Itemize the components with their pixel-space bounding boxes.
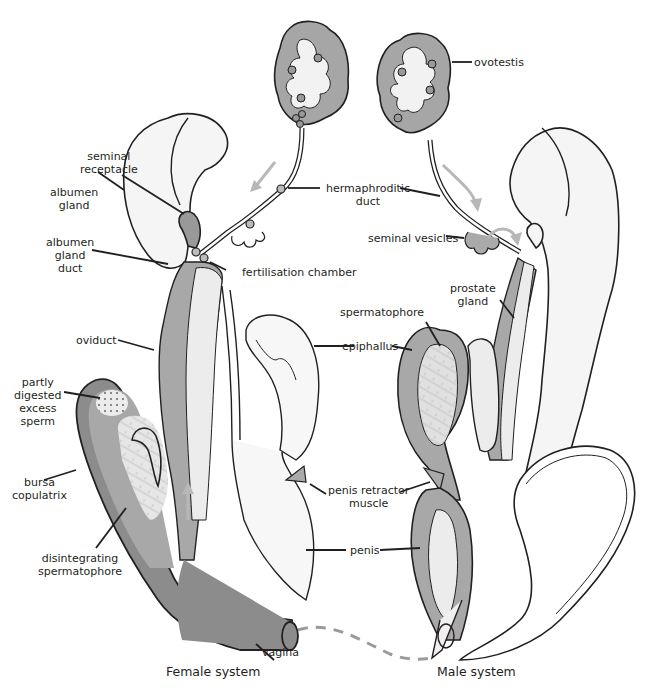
label-oviduct: oviduct xyxy=(76,334,117,347)
label-ovotestis: ovotestis xyxy=(474,56,524,69)
label-line: bursa xyxy=(12,476,67,489)
label-line: gland xyxy=(450,295,496,308)
label-prostate-gland: prostate gland xyxy=(450,282,496,308)
caption-male-system: Male system xyxy=(437,664,516,679)
label-hermaphroditic-duct: hermaphroditic duct xyxy=(326,182,410,208)
label-line: albumen xyxy=(50,186,98,199)
label-line: duct xyxy=(46,262,94,275)
label-line: spermatophore xyxy=(38,565,122,578)
label-line: excess xyxy=(14,402,62,415)
label-line: disintegrating xyxy=(38,552,122,565)
reproductive-system-diagram: seminal receptacle albumen gland albumen… xyxy=(0,0,654,697)
label-line: prostate xyxy=(450,282,496,295)
label-line: sperm xyxy=(14,415,62,428)
label-line: gland xyxy=(50,199,98,212)
label-line: digested xyxy=(14,389,62,402)
caption-female-system: Female system xyxy=(166,664,260,679)
label-albumen-gland: albumen gland xyxy=(50,186,98,212)
label-spermatophore: spermatophore xyxy=(340,306,424,319)
label-line: hermaphroditic xyxy=(326,182,410,195)
label-line: penis retractor xyxy=(328,484,409,497)
label-albumen-gland-duct: albumen gland duct xyxy=(46,236,94,275)
label-penis-retractor-muscle: penis retractor muscle xyxy=(328,484,409,510)
label-seminal-receptacle: seminal receptacle xyxy=(80,150,138,176)
label-line: gland xyxy=(46,249,94,262)
label-line: copulatrix xyxy=(12,489,67,502)
label-seminal-vesicles: seminal vesicles xyxy=(368,232,458,245)
label-line: partly xyxy=(14,376,62,389)
label-line: muscle xyxy=(328,497,409,510)
label-epiphallus: epiphallus xyxy=(342,340,398,353)
label-fertilisation-chamber: fertilisation chamber xyxy=(242,266,356,279)
label-line: seminal xyxy=(80,150,138,163)
label-line: receptacle xyxy=(80,163,138,176)
label-penis: penis xyxy=(350,544,380,557)
label-vagina: vagina xyxy=(262,646,299,659)
label-line: albumen xyxy=(46,236,94,249)
leader-lines xyxy=(0,0,654,697)
label-disintegrating-spermatophore: disintegrating spermatophore xyxy=(38,552,122,578)
label-line: duct xyxy=(326,195,410,208)
label-partly-digested-excess-sperm: partly digested excess sperm xyxy=(14,376,62,428)
label-bursa-copulatrix: bursa copulatrix xyxy=(12,476,67,502)
